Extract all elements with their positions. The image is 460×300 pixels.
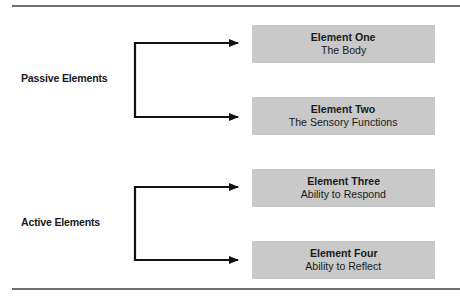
element-subtitle: The Body	[321, 44, 366, 57]
passive-bracket	[135, 43, 237, 117]
element-four-box: Element Four Ability to Reflect	[252, 241, 435, 279]
element-title: Element One	[311, 31, 376, 44]
element-title: Element Four	[310, 247, 378, 260]
element-title: Element Three	[307, 175, 380, 188]
element-subtitle: The Sensory Functions	[289, 116, 398, 129]
active-arrows	[135, 187, 238, 260]
element-subtitle: Ability to Respond	[301, 188, 386, 201]
bottom-rule	[12, 288, 460, 290]
passive-arrows	[135, 43, 238, 117]
active-bracket	[135, 187, 237, 260]
element-subtitle: Ability to Reflect	[306, 260, 382, 273]
element-one-box: Element One The Body	[252, 25, 435, 63]
element-title: Element Two	[311, 103, 375, 116]
element-three-box: Element Three Ability to Respond	[252, 169, 435, 207]
element-two-box: Element Two The Sensory Functions	[252, 97, 435, 135]
